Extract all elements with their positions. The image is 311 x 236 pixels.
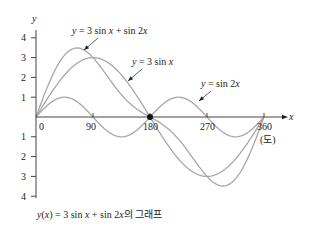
y-axis-label: y: [31, 13, 37, 24]
annotation-label-2: y = sin 2x: [200, 78, 240, 89]
annotation-part: = 3 sin: [76, 25, 108, 36]
y-tick-label-1: 1: [21, 92, 26, 103]
x-tick-label-270: 270: [200, 121, 215, 132]
y-tick-label-neg1: 1: [21, 131, 26, 142]
x-axis-label: x: [288, 111, 294, 122]
x-tick-label-90: 90: [86, 121, 96, 132]
caption-mid2: + sin 2: [89, 209, 119, 220]
annotation-part: = 3 sin: [136, 56, 168, 67]
x-tick-label-180: 180: [143, 121, 158, 132]
annotation-part: + sin 2: [113, 25, 143, 36]
x-axis-arrowhead: [282, 115, 288, 119]
y-tick-label-neg3: 3: [21, 171, 26, 182]
x-tick-label-0: 0: [39, 121, 44, 132]
caption-suffix: 의 그래프: [124, 209, 163, 220]
y-tick-label-neg2: 2: [21, 151, 26, 162]
y-tick-label-3: 3: [21, 52, 26, 63]
y-tick-label-4: 4: [21, 32, 26, 43]
annotation-part: x: [142, 25, 148, 36]
y-tick-label-neg4: 4: [21, 191, 26, 202]
figure-caption: y(x) = 3 sin x + sin 2x의 그래프: [37, 206, 162, 221]
annotation-part: x: [168, 56, 174, 67]
annotation-label-0: y = 3 sin x + sin 2x: [71, 25, 148, 36]
x-unit-label: (도): [260, 134, 276, 146]
x-tick-label-360: 360: [257, 121, 272, 132]
marked-point-180: [147, 114, 153, 120]
annotation-part: = sin 2: [205, 78, 235, 89]
annotation-part: x: [234, 78, 240, 89]
annotations-group: y = 3 sin x + sin 2xy = 3 sin xy = sin 2…: [71, 25, 240, 101]
chart: 09018027036012341234 x y (도) y = 3 sin x…: [0, 0, 311, 236]
y-tick-label-2: 2: [21, 72, 26, 83]
caption-mid: ) = 3 sin: [49, 209, 85, 220]
annotation-label-1: y = 3 sin x: [131, 56, 174, 67]
